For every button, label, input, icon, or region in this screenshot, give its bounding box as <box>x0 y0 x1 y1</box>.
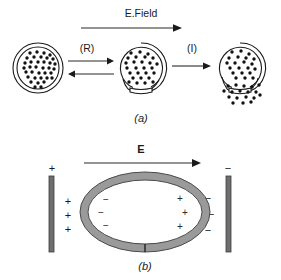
reversible-label: (R) <box>80 42 95 54</box>
vesicle-outer-wall <box>13 43 63 93</box>
cathode-electrode <box>226 176 231 252</box>
outside-charges-left: + + + <box>65 195 71 235</box>
reverse-arrow-head <box>68 71 75 78</box>
vesicle-contents-dots <box>225 49 256 79</box>
membrane-pore <box>130 88 152 94</box>
outside-charge-left: + <box>65 209 71 221</box>
vesicle-contents-dots <box>22 50 56 88</box>
outside-charge-left: + <box>65 223 71 235</box>
vesicle-contents-dots <box>124 50 158 84</box>
e-field-label: E <box>137 143 144 155</box>
efield-label: E.Field <box>125 7 158 19</box>
panel-b: E + − + + + − − − − − − <box>49 143 231 272</box>
anode-sign: + <box>49 162 55 174</box>
electroporation-figure: E.Field (R) <box>0 0 281 280</box>
efield-arrow-head <box>173 24 182 32</box>
outside-charge-left: + <box>65 195 71 207</box>
efield-arrow-group: E.Field <box>81 7 182 32</box>
inside-charge-right: + <box>182 207 188 218</box>
inside-charge-right: + <box>177 193 183 204</box>
anode-electrode <box>49 176 54 252</box>
e-arrow-group: E <box>84 143 201 167</box>
vesicle-outer-wall <box>128 43 167 93</box>
intact-vesicle <box>13 43 63 93</box>
inside-charge-left: − <box>103 194 109 205</box>
panel-a: E.Field (R) <box>13 7 266 124</box>
cathode-sign: − <box>225 162 231 174</box>
inside-charge-left: − <box>103 220 109 231</box>
reversible-step: (R) <box>68 42 114 77</box>
leaking-vesicle <box>219 43 265 105</box>
forward-arrow-head <box>107 58 114 65</box>
panel-b-caption: (b) <box>138 260 152 272</box>
pored-vesicle <box>120 43 166 94</box>
inside-charge-left: − <box>98 207 104 218</box>
irreversible-label: (I) <box>187 42 197 54</box>
irreversible-arrow-head <box>203 63 211 70</box>
panel-a-caption: (a) <box>134 112 148 124</box>
irreversible-step: (I) <box>172 42 211 69</box>
e-arrow-head <box>192 159 201 167</box>
inside-charge-right: + <box>177 221 183 232</box>
